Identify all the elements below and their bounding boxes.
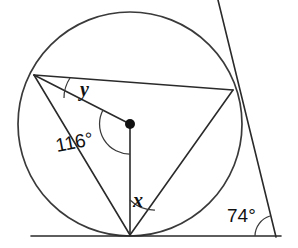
chord-left-right (34, 75, 233, 90)
tangent-line (218, 0, 276, 237)
y-variable-label: y (78, 78, 89, 101)
chord-bottom-right (130, 90, 233, 235)
y-angle-arc (64, 78, 70, 98)
exterior-angle-arc (255, 216, 270, 236)
geometry-figure-container: 116° 74° y x (0, 0, 298, 248)
geometry-diagram: 116° 74° y x (0, 0, 298, 248)
circle-center-dot (125, 119, 135, 129)
center-angle-label: 116° (54, 128, 95, 156)
x-variable-label: x (132, 189, 143, 211)
exterior-angle-label: 74° (227, 205, 256, 226)
